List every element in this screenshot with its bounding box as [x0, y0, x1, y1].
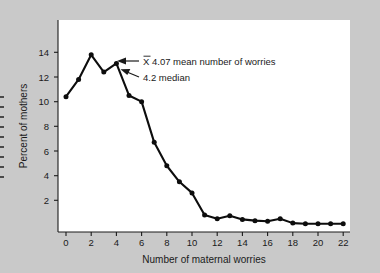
data-point: [76, 77, 81, 82]
y-tick-label: 10: [38, 96, 49, 107]
y-tick-label: 2: [44, 195, 49, 206]
data-point: [227, 213, 232, 218]
data-point: [190, 190, 195, 195]
x-tick-label: 22: [338, 237, 349, 248]
x-tick-label: 16: [262, 237, 273, 248]
median-arrow-line: [127, 72, 139, 77]
data-point: [164, 163, 169, 168]
data-point: [101, 70, 106, 75]
data-point: [215, 216, 220, 221]
data-point: [202, 213, 207, 218]
x-tick-label: 2: [89, 237, 94, 248]
y-tick-label: 8: [44, 121, 49, 132]
line-chart: 2 4 6 8 10 12 14 0 2 4 6 8: [0, 0, 380, 273]
data-point: [152, 140, 157, 145]
y-tick-label: 14: [38, 47, 49, 58]
x-tick-label: 4: [114, 237, 119, 248]
x-tick-label: 20: [313, 237, 324, 248]
median-annotation-label: 4.2 median: [143, 72, 190, 83]
data-point: [127, 93, 132, 98]
x-axis-ticks: 0 2 4 6 8 10 12 14 16 18 20 22: [63, 232, 348, 248]
x-tick-label: 14: [237, 237, 248, 248]
data-point: [253, 218, 258, 223]
y-axis-title: Percent of mothers: [18, 84, 29, 168]
data-point: [328, 221, 333, 226]
data-series-markers: [64, 52, 346, 226]
x-tick-label: 10: [187, 237, 198, 248]
data-point: [303, 221, 308, 226]
y-tick-label: 6: [44, 146, 49, 157]
mean-annotation-label: X 4.07 mean number of worries: [143, 56, 276, 67]
data-point: [265, 219, 270, 224]
y-tick-label: 12: [38, 72, 49, 83]
data-point: [240, 217, 245, 222]
x-tick-label: 8: [164, 237, 169, 248]
y-axis-ticks: 2 4 6 8 10 12 14: [38, 47, 58, 206]
median-arrow-head: [121, 69, 131, 75]
x-tick-label: 12: [212, 237, 223, 248]
data-series-line: [66, 55, 343, 224]
x-tick-label: 6: [139, 237, 144, 248]
x-axis-title: Number of maternal worries: [142, 254, 265, 265]
data-point: [316, 221, 321, 226]
x-tick-label: 0: [63, 237, 68, 248]
data-point: [139, 99, 144, 104]
y-tick-label: 4: [44, 170, 49, 181]
data-point: [278, 216, 283, 221]
data-point: [177, 179, 182, 184]
mean-annotation: X 4.07 mean number of worries: [117, 56, 276, 67]
x-tick-label: 18: [288, 237, 299, 248]
figure-background: 2 4 6 8 10 12 14 0 2 4 6 8: [0, 0, 380, 273]
data-point: [64, 94, 69, 99]
data-point: [89, 52, 94, 57]
median-annotation: 4.2 median: [121, 69, 191, 83]
data-point: [341, 221, 346, 226]
data-point: [114, 61, 119, 66]
data-point: [290, 221, 295, 226]
